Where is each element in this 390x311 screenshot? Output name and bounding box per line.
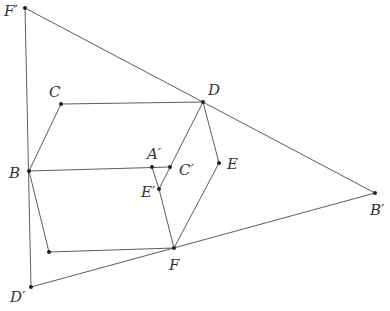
label-Ep: E′ [140,183,156,201]
point-C [59,102,63,106]
segment-B-C [29,104,61,171]
segments-layer [25,8,375,287]
label-Ap: A′ [145,145,162,163]
point-E [217,161,221,165]
label-B: B [8,164,20,182]
segment-Dp-Bp [31,193,375,287]
segment-Ep-F [159,189,174,248]
point-Dp [29,285,33,289]
point-Cp [168,165,172,169]
point-G [47,250,51,254]
segment-Fp-Bp [25,8,375,193]
point-Fp [23,6,27,10]
points-layer [23,6,377,289]
labels-layer: F′CDBA′C′EE′FD′B′ [3,2,385,306]
segment-D-E [203,102,219,163]
point-D [201,100,205,104]
point-Ep [157,187,161,191]
point-Ap [150,165,154,169]
label-E: E [226,155,238,173]
label-Fp: F′ [3,2,18,20]
segment-G-F [49,248,174,252]
segment-B-Cp [29,167,170,171]
geometry-diagram: F′CDBA′C′EE′FD′B′ [0,0,390,311]
label-Dp: D′ [9,288,26,306]
label-C: C [49,83,61,101]
point-F [172,246,176,250]
segment-B-G [29,171,49,252]
point-B [27,169,31,173]
segment-Fp-Dp [25,8,31,287]
label-D: D [207,81,220,99]
label-Cp: C′ [179,161,194,179]
label-F: F [168,256,180,274]
point-Bp [373,191,377,195]
segment-C-D [61,102,203,104]
label-Bp: B′ [369,201,385,219]
